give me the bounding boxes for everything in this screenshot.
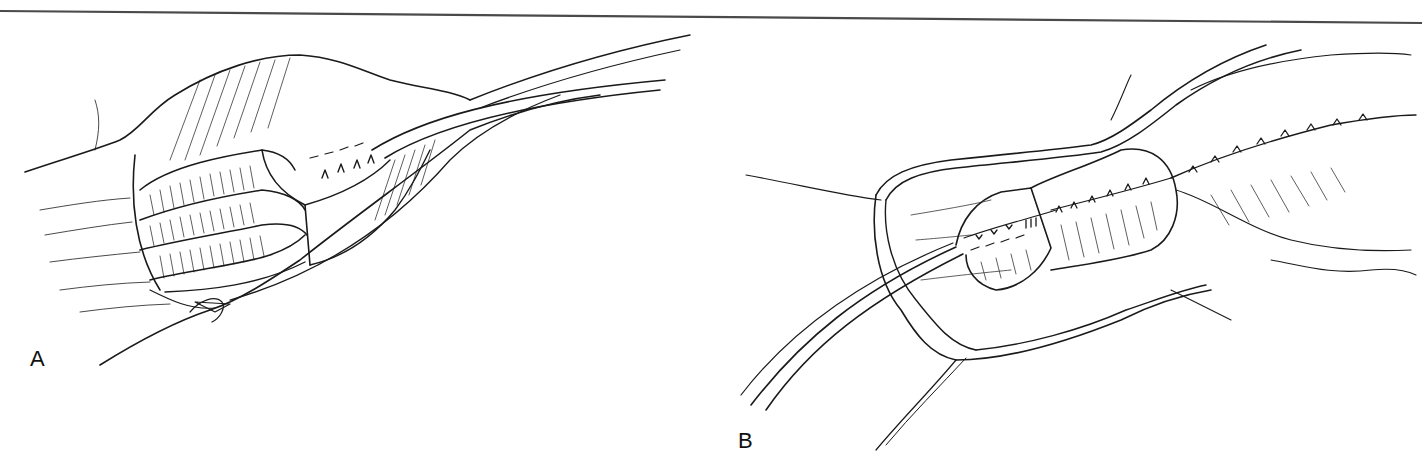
surgical-illustration-b — [711, 0, 1422, 469]
panel-label-a: A — [30, 348, 45, 370]
panel-label-b: B — [738, 430, 753, 452]
panel-a: A — [0, 0, 711, 469]
panel-b: B — [711, 0, 1422, 469]
surgical-illustration-a — [0, 0, 711, 469]
